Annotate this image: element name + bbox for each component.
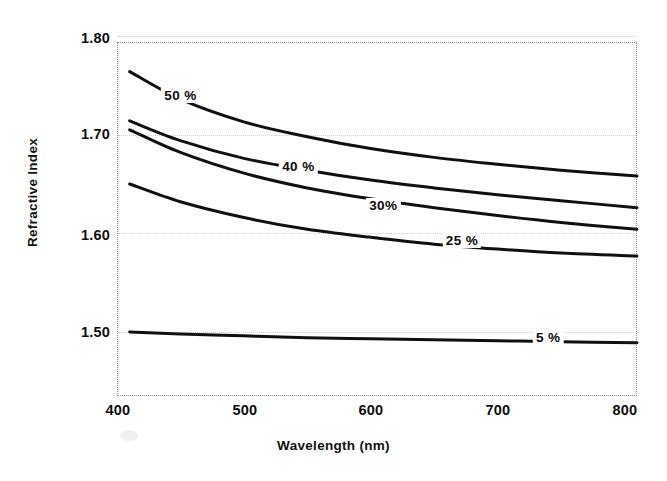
y-tick-label: 1.70 (34, 127, 110, 141)
series-label: 5 % (533, 330, 563, 345)
x-tick-label: 500 (215, 402, 275, 418)
y-tick-label: 1.80 (34, 31, 110, 45)
gridline (118, 36, 636, 37)
series-label: 25 % (443, 233, 481, 248)
chart-figure: 1.80 1.70 1.60 1.50 400 500 600 700 800 … (0, 0, 667, 481)
gridline (118, 233, 636, 234)
x-tick-label: 600 (341, 402, 401, 418)
series-label: 50 % (161, 88, 199, 103)
x-tick-label: 800 (595, 402, 655, 418)
x-tick-label: 700 (468, 402, 528, 418)
x-axis-tick-labels: 400 500 600 700 800 (0, 402, 667, 428)
y-tick-label: 1.60 (34, 228, 110, 242)
series-label: 40 % (279, 159, 317, 174)
x-tick-label: 400 (88, 402, 148, 418)
x-axis-title: Wavelength (nm) (0, 438, 667, 453)
gridline (118, 135, 636, 136)
y-tick-label: 1.50 (34, 325, 110, 339)
y-axis-title: Refractive Index (25, 93, 40, 293)
series-label: 30% (366, 198, 400, 213)
